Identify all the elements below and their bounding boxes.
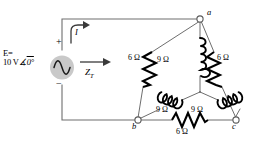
current-arrow-icon <box>71 21 90 43</box>
impedance-subscript: T <box>90 72 94 79</box>
circuit-schematic-canvas <box>0 0 255 143</box>
inductor-c-center-label: 9 Ω <box>191 106 203 114</box>
resistor-a-b-symbol <box>143 52 156 87</box>
source-terminal-minus: − <box>56 79 62 90</box>
source-terminal-plus: + <box>56 37 62 48</box>
impedance-arrow-icon <box>80 58 111 66</box>
wire-a-to-left-resistor <box>152 21 200 52</box>
node-b-label: b <box>132 122 136 131</box>
impedance-label: ZT <box>85 68 94 80</box>
resistor-a-c-label: 6 Ω <box>217 54 229 62</box>
wire-bottom <box>62 85 140 120</box>
node-a-label: a <box>207 8 211 17</box>
node-c-label: c <box>232 122 236 131</box>
source-label-value: 10 V∡0° <box>3 58 34 67</box>
wire-center-to-left-inductor <box>182 92 200 100</box>
node-a-terminal <box>197 16 203 22</box>
inductor-b-center-label: 9 Ω <box>156 106 168 114</box>
resistor-b-c-label: 6 Ω <box>176 128 188 136</box>
source-phase-angle-value: 0° <box>27 57 34 67</box>
source-phase-angle: ∡0° <box>19 57 34 67</box>
wye-center-node <box>199 91 201 93</box>
circuit-diagram: E= 10 V∡0° + − I ZT a b c 6 Ω 6 Ω 6 Ω 9 … <box>0 0 255 143</box>
wire-left-resistor-to-b <box>138 87 143 118</box>
resistor-a-b-label: 6 Ω <box>128 54 140 62</box>
ac-source-symbol <box>50 56 74 80</box>
wire-a-to-right-resistor <box>201 21 214 52</box>
current-label: I <box>75 28 78 37</box>
source-voltage-magnitude: 10 V <box>3 57 19 67</box>
inductor-c-center-symbol <box>216 90 244 110</box>
wire-center-to-right-inductor <box>200 92 218 100</box>
inductor-a-center-label: 9 Ω <box>157 56 169 64</box>
resistor-b-c-symbol <box>172 113 208 127</box>
